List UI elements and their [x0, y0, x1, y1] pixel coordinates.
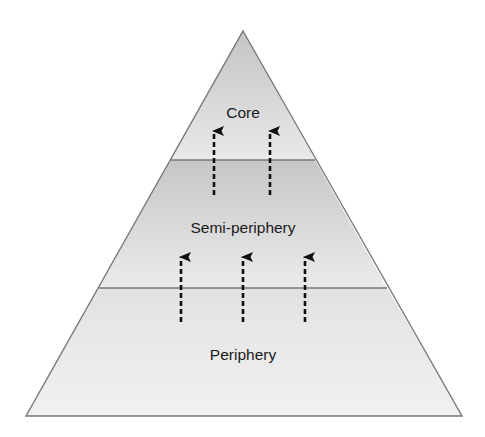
core-layer	[171, 31, 315, 160]
semi-periphery-label: Semi-periphery	[190, 219, 295, 236]
periphery-label: Periphery	[210, 346, 277, 363]
world-systems-pyramid-diagram: Core Semi-periphery Periphery	[0, 0, 485, 437]
core-label: Core	[226, 104, 260, 121]
